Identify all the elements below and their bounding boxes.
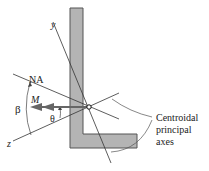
callout-curve-upper <box>112 99 152 117</box>
callout-text-line3: axes <box>156 136 174 147</box>
angle-cross-section <box>70 8 137 148</box>
beta-label: β <box>15 103 21 115</box>
angle-section-diagram: y z NA M β θ Centroidal principal axes <box>0 0 209 171</box>
moment-label: M <box>30 94 40 105</box>
callout-text-line2: principal <box>156 124 192 135</box>
theta-label: θ <box>50 113 55 124</box>
z-axis-label: z <box>6 138 11 149</box>
neutral-axis-label: NA <box>29 74 44 85</box>
beta-angle-arc <box>26 82 31 135</box>
moment-arrowhead-inner-icon <box>42 103 54 111</box>
centroid-marker <box>87 105 91 109</box>
y-axis-label: y <box>50 19 56 30</box>
callout-text-line1: Centroidal <box>156 112 198 123</box>
